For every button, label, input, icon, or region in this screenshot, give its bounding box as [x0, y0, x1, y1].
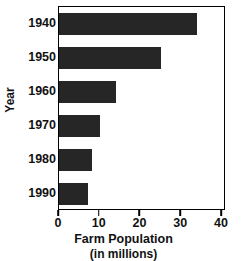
y-tick-label-1990: 1990 [6, 187, 56, 200]
y-tick-label-1950: 1950 [6, 51, 56, 64]
bar-1950 [59, 47, 161, 69]
x-tick-label-30: 30 [160, 217, 200, 231]
plot-area [58, 6, 225, 210]
bar-1970 [59, 115, 100, 137]
y-axis-tick-labels: 194019501960197019801990 [6, 6, 56, 210]
x-tick-label-10: 10 [79, 217, 119, 231]
y-tick-label-1940: 1940 [6, 17, 56, 30]
y-tick-label-1980: 1980 [6, 153, 56, 166]
x-axis-title-units: (in millions) [0, 247, 247, 261]
x-tick-label-0: 0 [38, 217, 78, 231]
y-tick-label-1960: 1960 [6, 85, 56, 98]
y-tick-label-1970: 1970 [6, 119, 56, 132]
x-axis-title: Farm Population (in millions) [0, 232, 247, 261]
bar-1960 [59, 81, 116, 103]
x-axis-title-main: Farm Population [74, 232, 173, 246]
x-tick-label-40: 40 [201, 217, 241, 231]
bar-1940 [59, 13, 197, 35]
bar-1990 [59, 183, 88, 205]
x-axis-tick-labels: 010203040 [58, 217, 225, 233]
bar-1980 [59, 149, 92, 171]
x-tick-label-20: 20 [119, 217, 159, 231]
farm-population-bar-chart: Year 194019501960197019801990 010203040 … [0, 0, 247, 261]
